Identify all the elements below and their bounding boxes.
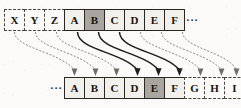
target-row-leading-ellipsis: ··· bbox=[50, 83, 63, 94]
source-cell-z[interactable]: Z bbox=[44, 9, 65, 31]
mapping-curve-e-to-h bbox=[162, 32, 225, 76]
source-cell-x[interactable]: X bbox=[4, 9, 25, 31]
mapping-curve-a-to-d bbox=[78, 32, 141, 76]
mapping-curve-z-to-c bbox=[57, 32, 120, 76]
target-cell-e[interactable]: E bbox=[144, 77, 165, 99]
source-cell-a[interactable]: A bbox=[64, 9, 85, 31]
source-row-trailing-ellipsis: ··· bbox=[186, 15, 199, 26]
source-sequence-row: X Y Z A B C D E F bbox=[4, 9, 185, 31]
mapping-curve-y-to-b bbox=[36, 32, 99, 76]
source-cell-d[interactable]: D bbox=[124, 9, 145, 31]
mapping-curve-f-to-i bbox=[183, 32, 240, 76]
sequence-shift-diagram: X Y Z A B C D E F ··· ··· A B C D E F G … bbox=[0, 0, 241, 108]
source-cell-f[interactable]: F bbox=[164, 9, 185, 31]
target-cell-c[interactable]: C bbox=[104, 77, 125, 99]
target-cell-g[interactable]: G bbox=[184, 77, 205, 99]
target-cell-b[interactable]: B bbox=[84, 77, 105, 99]
source-cell-y[interactable]: Y bbox=[24, 9, 45, 31]
source-cell-b[interactable]: B bbox=[84, 9, 105, 31]
target-cell-i[interactable]: I bbox=[224, 77, 241, 99]
target-cell-f[interactable]: F bbox=[164, 77, 185, 99]
target-sequence-row: A B C D E F G H I bbox=[64, 77, 241, 99]
mapping-curve-x-to-a bbox=[15, 32, 78, 76]
mapping-curve-d-to-g bbox=[141, 32, 204, 76]
source-cell-e[interactable]: E bbox=[144, 9, 165, 31]
target-cell-h[interactable]: H bbox=[204, 77, 225, 99]
source-cell-c[interactable]: C bbox=[104, 9, 125, 31]
target-cell-d[interactable]: D bbox=[124, 77, 145, 99]
mapping-curve-c-to-f bbox=[120, 32, 183, 76]
mapping-curve-b-to-e bbox=[99, 32, 162, 76]
target-cell-a[interactable]: A bbox=[64, 77, 85, 99]
